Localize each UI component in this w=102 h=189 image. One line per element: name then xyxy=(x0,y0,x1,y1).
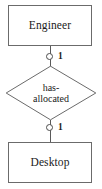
cardinality-circle-lower xyxy=(46,124,53,131)
entity-box-desktop[interactable]: Desktop xyxy=(8,142,92,183)
relationship-diamond-shape[interactable] xyxy=(5,65,97,121)
cardinality-circle-upper xyxy=(46,53,53,60)
entity-label-desktop: Desktop xyxy=(30,157,69,169)
cardinality-label-upper: 1 xyxy=(58,52,63,62)
entity-label-engineer: Engineer xyxy=(29,20,71,32)
er-diagram-canvas: Engineer 1 has- allocated 1 Desktop xyxy=(0,0,102,189)
cardinality-label-lower: 1 xyxy=(58,123,63,133)
entity-box-engineer[interactable]: Engineer xyxy=(8,5,92,46)
